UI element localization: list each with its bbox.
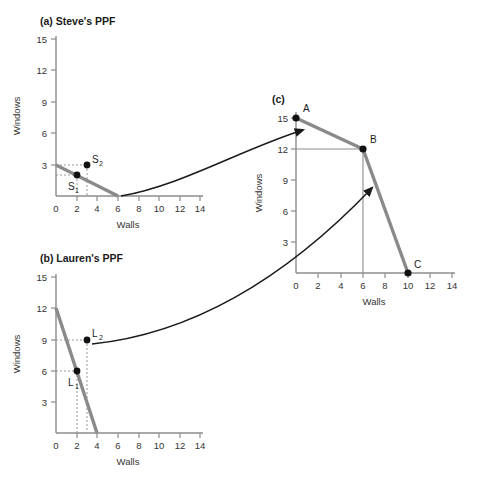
panel-b-point-l1-sub: 1 (75, 383, 79, 390)
panel-b-x-ticks: 0 2 4 6 8 10 12 14 (53, 433, 205, 451)
panel-a-ytick-6: 6 (42, 128, 47, 139)
panel-c-ytick-9: 9 (283, 175, 288, 186)
connector-steve-to-combined (121, 130, 303, 196)
panel-b-point-l1-label: L (68, 377, 74, 388)
panel-b-xtick-2: 2 (74, 440, 79, 451)
panel-a-xtick-14: 14 (195, 203, 206, 214)
panel-c-xtick-10: 10 (403, 280, 414, 291)
panel-c-ytick-12: 12 (277, 144, 288, 155)
panel-b-y-axis-label: Windows (11, 334, 22, 373)
panel-b-xtick-4: 4 (94, 440, 99, 451)
panel-a-y-axis-label: Windows (11, 96, 22, 135)
panel-c-ytick-15: 15 (277, 113, 288, 124)
panel-a-xtick-10: 10 (154, 203, 165, 214)
panel-b-xtick-10: 10 (154, 440, 165, 451)
panel-b-ytick-3: 3 (42, 397, 47, 408)
panel-b-ytick-12: 12 (36, 303, 47, 314)
panel-a-point-s2-sub: 2 (99, 160, 103, 167)
panel-c-ytick-3: 3 (283, 237, 288, 248)
panel-b-y-ticks: 15 12 9 6 3 (36, 272, 56, 408)
panel-c-point-c (404, 269, 411, 276)
panel-a-xtick-6: 6 (115, 203, 120, 214)
panel-c-point-c-label: C (414, 259, 421, 270)
panel-a-ytick-3: 3 (42, 160, 47, 171)
panel-a-ytick-9: 9 (42, 97, 47, 108)
ppf-figure: (a) Steve's PPF 15 12 9 6 3 0 2 (0, 0, 482, 484)
panel-b-point-l1 (74, 368, 81, 375)
panel-a-y-ticks: 15 12 9 6 3 (36, 34, 56, 171)
panel-a-xtick-8: 8 (136, 203, 141, 214)
panel-c-point-b-label: B (370, 134, 377, 145)
panel-c-xtick-12: 12 (425, 280, 436, 291)
panel-b-xtick-6: 6 (115, 440, 120, 451)
panel-c-xtick-14: 14 (447, 280, 458, 291)
panel-b: (b) Lauren's PPF 15 12 9 6 3 0 2 4 (11, 252, 205, 467)
panel-c-point-a-label: A (303, 103, 310, 114)
panel-b-point-l2-label: L (92, 328, 98, 339)
panel-a-point-s1-label: S (68, 181, 75, 192)
panel-c-xtick-6: 6 (360, 280, 365, 291)
panel-b-x-axis-label: Walls (117, 456, 140, 467)
panel-b-xtick-12: 12 (175, 440, 186, 451)
panel-a-x-ticks: 0 2 4 6 8 10 12 14 (53, 196, 205, 214)
panel-c-ytick-6: 6 (283, 206, 288, 217)
panel-a-xtick-2: 2 (74, 203, 79, 214)
panel-c-xtick-0: 0 (293, 280, 298, 291)
panel-c-guides (296, 149, 363, 273)
panel-a-xtick-4: 4 (94, 203, 99, 214)
figure-canvas: (a) Steve's PPF 15 12 9 6 3 0 2 (0, 0, 482, 484)
panel-c-point-b (359, 145, 366, 152)
panel-c-xtick-4: 4 (338, 280, 343, 291)
panel-b-point-l2-sub: 2 (99, 334, 103, 341)
panel-c-ppf-line (296, 118, 408, 273)
panel-c: (c) 15 12 9 6 3 0 2 4 6 8 (253, 93, 457, 307)
panel-b-title: (b) Lauren's PPF (40, 252, 124, 264)
panel-a-xtick-0: 0 (53, 203, 58, 214)
panel-a-xtick-12: 12 (175, 203, 186, 214)
panel-a-ytick-15: 15 (36, 34, 47, 45)
panel-a-point-s1-sub: 1 (75, 187, 79, 194)
panel-c-point-a (292, 114, 299, 121)
panel-b-xtick-0: 0 (53, 440, 58, 451)
panel-c-x-ticks: 0 2 4 6 8 10 12 14 (293, 273, 457, 291)
panel-a-point-s2 (84, 162, 91, 169)
panel-c-title: (c) (272, 93, 285, 105)
panel-a: (a) Steve's PPF 15 12 9 6 3 0 2 (11, 15, 205, 230)
panel-a-point-s1 (74, 172, 81, 179)
panel-c-x-axis-label: Walls (363, 296, 386, 307)
panel-c-xtick-8: 8 (382, 280, 387, 291)
panel-a-ytick-12: 12 (36, 65, 47, 76)
panel-b-ytick-15: 15 (36, 272, 47, 283)
panel-a-x-axis-label: Walls (117, 219, 140, 230)
panel-c-y-axis-label: Windows (253, 173, 264, 212)
panel-b-xtick-14: 14 (195, 440, 206, 451)
panel-b-xtick-8: 8 (136, 440, 141, 451)
panel-c-xtick-2: 2 (315, 280, 320, 291)
panel-a-title: (a) Steve's PPF (40, 15, 116, 27)
panel-b-ytick-9: 9 (42, 335, 47, 346)
panel-b-ytick-6: 6 (42, 366, 47, 377)
panel-b-point-l2 (84, 337, 91, 344)
panel-a-point-s2-label: S (92, 154, 99, 165)
connector-lauren-to-combined (92, 188, 372, 344)
